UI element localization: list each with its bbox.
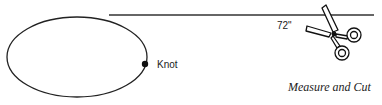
scissors-icon — [306, 5, 361, 60]
length-label: 72" — [277, 20, 292, 31]
cord-loop — [7, 17, 147, 97]
knot-dot — [142, 61, 148, 67]
knot-label: Knot — [157, 59, 178, 70]
caption: Measure and Cut — [288, 80, 371, 95]
